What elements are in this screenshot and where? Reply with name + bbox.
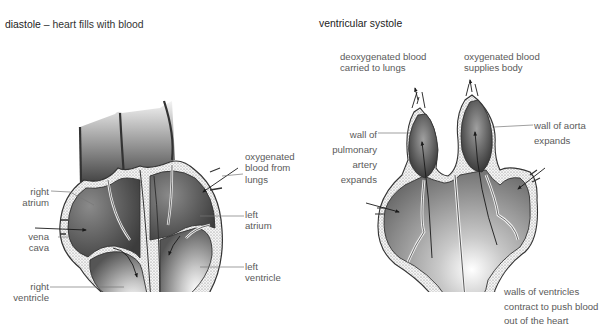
label-right-atrium: right atrium <box>0 186 49 209</box>
label-right-ventricle: right ventricle <box>0 281 49 304</box>
label-vena-cava: vena cava <box>0 231 49 254</box>
label-left-atrium: left atrium <box>245 209 272 232</box>
diastole-heart <box>35 101 238 292</box>
systole-leader-lines <box>378 125 533 133</box>
label-pulmonary-artery-wall: wall of pulmonary artery expands <box>300 127 377 187</box>
label-ventricle-walls-contract: walls of ventricles contract to push blo… <box>504 285 598 328</box>
systole-heart <box>366 80 545 292</box>
label-deoxygenated-blood: deoxygenated blood carried to lungs <box>340 51 426 74</box>
label-oxygenated-blood-from-lungs: oxygenated blood from lungs <box>245 151 295 185</box>
label-aorta-wall: wall of aorta expands <box>534 118 586 148</box>
label-oxygenated-blood-body: oxygenated blood supplies body <box>464 51 540 74</box>
label-left-ventricle: left ventricle <box>245 261 281 284</box>
